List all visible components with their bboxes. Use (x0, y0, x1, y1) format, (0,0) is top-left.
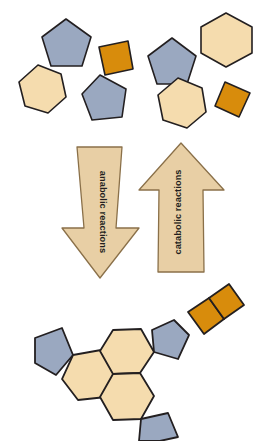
catabolic-arrow-label: catabolic reactions (173, 169, 183, 254)
monomer-square-2 (215, 82, 250, 117)
arrow-group: anabolic reactions catabolic reactions (62, 143, 224, 278)
polymer-group (35, 284, 244, 441)
diagram-svg: anabolic reactions catabolic reactions (0, 0, 263, 441)
monomer-pentagon-3 (82, 75, 126, 120)
monomer-hexagon-3 (158, 78, 206, 128)
anabolic-arrow-label: anabolic reactions (98, 171, 108, 253)
monomer-square-1 (99, 41, 133, 75)
polymer-pentagon-lower (139, 413, 178, 441)
monomer-group (19, 13, 252, 128)
monomer-pentagon-2 (148, 38, 196, 84)
polymer-pentagon-right (152, 320, 189, 359)
monomer-hexagon-2 (19, 65, 66, 113)
figure-canvas: anabolic reactions catabolic reactions (0, 0, 263, 441)
monomer-hexagon-1 (201, 13, 252, 67)
monomer-pentagon-1 (42, 19, 91, 66)
